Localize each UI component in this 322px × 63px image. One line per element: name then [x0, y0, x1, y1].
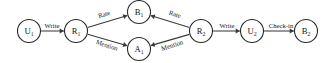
edge-label-e4: Rate — [168, 9, 182, 19]
node-label-subscript: 2 — [202, 31, 205, 37]
arrow-head-icon — [290, 29, 294, 34]
arrow-head-icon — [236, 29, 240, 34]
graph-canvas: U1R1B1A1R2U2B2 WriteRateMentionRateMenti… — [0, 0, 322, 63]
edge-line — [151, 16, 190, 28]
arrow-head-icon — [60, 29, 64, 34]
node-label-subscript: 2 — [254, 31, 257, 37]
node-b1[interactable]: B1 — [128, 1, 151, 24]
arrow-head-icon — [151, 42, 156, 47]
edge-r2-u2 — [213, 29, 240, 34]
edge-label-e7: Check-in — [269, 22, 294, 29]
edge-label-e1: Write — [45, 22, 60, 29]
edge-r2-b1 — [151, 14, 190, 27]
edge-u1-r1 — [41, 29, 64, 34]
node-r1[interactable]: R1 — [65, 20, 88, 43]
node-label-subscript: 1 — [140, 12, 143, 18]
node-r2[interactable]: R2 — [190, 20, 213, 43]
edge-label-e2: Rate — [97, 9, 111, 19]
node-label-subscript: 1 — [77, 31, 80, 37]
edge-label-e5: Mention — [160, 38, 184, 52]
edge-line — [88, 15, 128, 27]
edge-u2-b2 — [264, 29, 294, 34]
edge-label-e6: Write — [220, 22, 235, 29]
graph-diagram: U1R1B1A1R2U2B2 WriteRateMentionRateMenti… — [0, 0, 322, 63]
node-label-subscript: 1 — [31, 31, 34, 37]
arrow-head-icon — [123, 42, 128, 47]
node-u1[interactable]: U1 — [18, 20, 41, 43]
node-label-subscript: 1 — [141, 49, 144, 55]
node-label-subscript: 2 — [307, 31, 310, 37]
node-a1[interactable]: A1 — [128, 38, 151, 61]
node-b2[interactable]: B2 — [295, 20, 318, 43]
node-u2[interactable]: U2 — [241, 20, 264, 43]
